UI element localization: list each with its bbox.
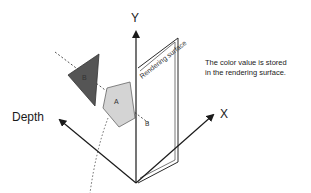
caption-line-1: The color value is stored	[205, 58, 287, 67]
dark-triangle-label: B	[82, 74, 87, 81]
projection-curve-dotted	[90, 118, 108, 193]
y-axis-label: Y	[131, 11, 139, 25]
light-pentagon-shape	[103, 82, 135, 127]
caption-line-2: in the rendering surface.	[205, 68, 286, 77]
rendering-diagram: B A B Y X Depth Rendering surface The co…	[0, 0, 311, 193]
intersection-point-label: B	[145, 120, 149, 127]
depth-axis	[60, 120, 136, 183]
x-axis-label: X	[220, 107, 228, 121]
light-pentagon-label: A	[114, 98, 119, 105]
rendering-surface-label: Rendering surface	[138, 39, 188, 81]
depth-axis-label: Depth	[12, 110, 44, 124]
